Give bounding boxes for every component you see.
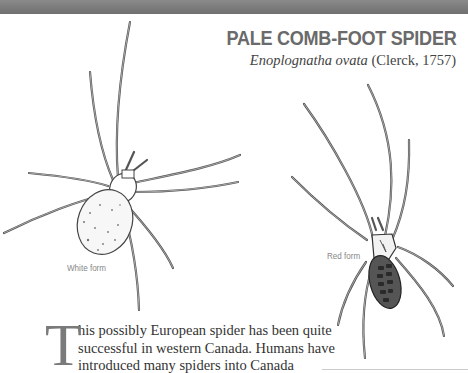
drop-cap: T <box>45 320 82 370</box>
page-title: PALE COMB-FOOT SPIDER <box>226 26 456 50</box>
body-paragraph: T his possibly European spider has been … <box>47 322 317 373</box>
species-name: Enoplognatha ovata <box>250 52 368 68</box>
body-line: successful in western Canada. Humans hav… <box>47 340 317 358</box>
body-line: his possibly European spider has been qu… <box>47 322 317 340</box>
body-line: introduced many spiders into Canada <box>47 357 317 373</box>
divider <box>322 369 468 370</box>
caption-white-form: White form <box>67 262 106 273</box>
scientific-name: Enoplognatha ovata (Clerck, 1757) <box>250 52 456 69</box>
caption-red-form: Red form <box>327 250 360 261</box>
species-authority: (Clerck, 1757) <box>368 52 456 68</box>
